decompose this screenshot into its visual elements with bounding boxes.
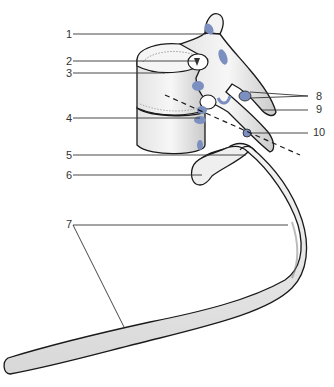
- label-5: 5: [60, 150, 72, 161]
- facet-transverse-costal: [239, 91, 251, 101]
- facet-body-lower: [197, 140, 203, 150]
- label-4: 4: [60, 113, 72, 124]
- label-7: 7: [60, 219, 72, 230]
- rib: [4, 144, 307, 375]
- label-9: 9: [316, 104, 322, 115]
- label-1: 1: [60, 29, 72, 40]
- label-3: 3: [60, 68, 72, 79]
- facet-costal-lower: [194, 116, 206, 124]
- vertebra-rib-illustration: [0, 0, 334, 387]
- label-8: 8: [316, 91, 322, 102]
- label-10: 10: [313, 127, 325, 138]
- label-6: 6: [60, 170, 72, 181]
- label-2: 2: [60, 56, 72, 67]
- facet-superior-costal: [192, 81, 204, 91]
